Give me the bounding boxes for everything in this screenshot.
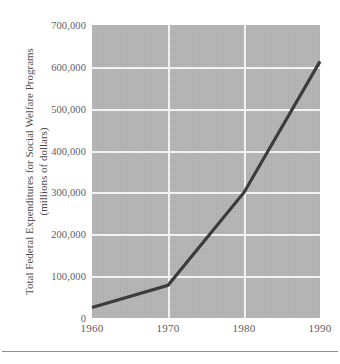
y-tick-100000: 100,000: [6, 271, 92, 282]
y-tick-700000: 700,000: [6, 20, 92, 31]
y-tick-200000: 200,000: [6, 229, 92, 240]
x-tick-1990: 1990: [290, 322, 340, 334]
y-axis-tick-labels: 700,000 600,000 500,000 400,000 300,000 …: [0, 25, 92, 318]
y-tick-600000: 600,000: [6, 61, 92, 72]
x-tick-1970: 1970: [138, 322, 198, 334]
data-series-line: [92, 25, 320, 318]
chart-figure: Total Federal Expenditures for Social We…: [0, 0, 340, 364]
y-tick-300000: 300,000: [6, 187, 92, 198]
x-tick-1960: 1960: [62, 322, 122, 334]
y-tick-500000: 500,000: [6, 103, 92, 114]
footer-divider-rule: [2, 351, 338, 352]
y-tick-400000: 400,000: [6, 145, 92, 156]
x-tick-1980: 1980: [214, 322, 274, 334]
x-axis-tick-labels: 1960 1970 1980 1990: [92, 322, 320, 342]
series-polyline: [92, 61, 320, 307]
